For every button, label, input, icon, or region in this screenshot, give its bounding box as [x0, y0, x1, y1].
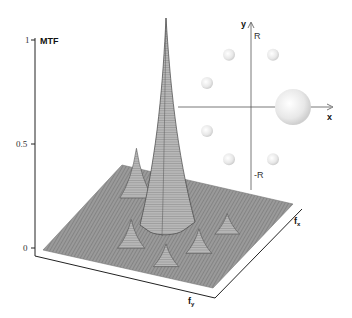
fx-axis-label: fx	[294, 216, 301, 227]
z-axis-label: MTF	[40, 36, 59, 46]
small-aperture-circle-2	[201, 77, 213, 89]
mtf-surface	[43, 18, 293, 288]
small-aperture-circle-5	[267, 153, 279, 165]
inset-aperture-diagram: y x R -R	[178, 19, 333, 190]
inset-r-label: R	[254, 31, 261, 41]
inset-y-label: y	[241, 19, 246, 29]
inset-x-label: x	[327, 112, 332, 122]
large-aperture-circle	[275, 89, 311, 125]
z-tick-label-1: 1	[25, 35, 30, 45]
small-aperture-circle-1	[267, 49, 279, 61]
fy-axis-label: fy	[188, 296, 195, 307]
small-aperture-circle-3	[201, 125, 213, 137]
small-aperture-circle-0	[223, 49, 235, 61]
central-peak	[140, 18, 195, 235]
z-tick-label-05: 0.5	[16, 139, 28, 149]
z-tick-label-0: 0	[23, 243, 28, 253]
small-aperture-circle-4	[223, 153, 235, 165]
inset-neg-r-label: -R	[254, 170, 264, 180]
mtf-surface-chart: y x R -R 0 0.5 1 MTF fx fy	[0, 0, 352, 318]
